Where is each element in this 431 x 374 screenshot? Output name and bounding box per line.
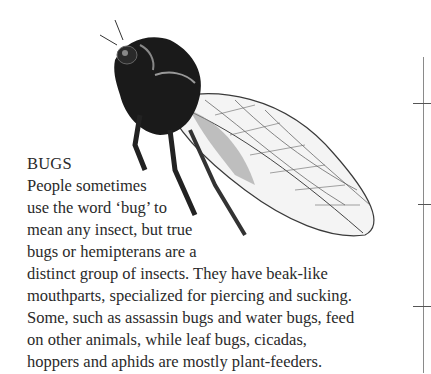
ruler-tick	[418, 204, 431, 205]
body-line: mean any insect, but true	[27, 219, 354, 241]
body-line: bugs or hemipterans are a	[27, 241, 354, 263]
vertical-ruler	[423, 57, 424, 373]
body-line: Some, such as assassin bugs and water bu…	[27, 307, 354, 329]
body-line: distinct group of insects. They have bea…	[27, 263, 354, 285]
body-line: hoppers and aphids are mostly plant-feed…	[27, 351, 354, 373]
section-title: BUGS	[27, 153, 72, 175]
ruler-tick	[413, 306, 431, 307]
section-body: People sometimes use the word ‘bug’ to m…	[27, 175, 354, 373]
ruler-tick	[413, 103, 431, 104]
body-line: on other animals, while leaf bugs, cicad…	[27, 329, 354, 351]
body-line: use the word ‘bug’ to	[27, 197, 354, 219]
body-line: mouthparts, specialized for piercing and…	[27, 285, 354, 307]
body-line: People sometimes	[27, 175, 354, 197]
